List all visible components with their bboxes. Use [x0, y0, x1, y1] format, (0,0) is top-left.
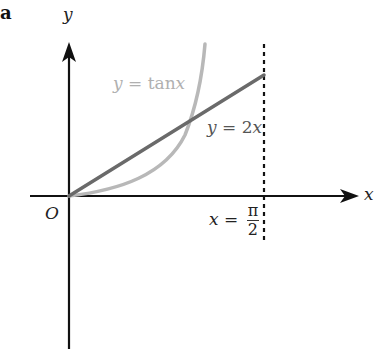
tan-curve-label: y = tanx [113, 75, 185, 92]
graph-canvas [0, 0, 382, 349]
x-axis-label: x [364, 186, 374, 203]
tan-label-eq: = [123, 73, 148, 93]
tan-label-func: tan [148, 73, 176, 93]
origin-label: O [45, 205, 59, 222]
tan-curve [69, 44, 205, 196]
asymptote-label-lhs: x [209, 209, 219, 229]
line-label-eq: = [217, 117, 242, 137]
fraction-numerator: π [247, 203, 260, 221]
asymptote-label-eq: = [219, 209, 244, 229]
asymptote-fraction: π2 [247, 203, 260, 238]
line-label: y = 2x [207, 119, 262, 136]
fraction-denominator: 2 [247, 221, 260, 238]
line-label-coef: 2 [242, 117, 253, 137]
graph-diagram: a y x O y = tanx y = 2x x = π2 [0, 0, 382, 349]
asymptote-label: x = π2 [209, 203, 259, 238]
part-label: a [0, 2, 12, 23]
tan-label-lhs: y [113, 73, 123, 93]
line-label-lhs: y [207, 117, 217, 137]
tan-label-var: x [176, 73, 186, 93]
line-label-var: x [253, 117, 263, 137]
y-axis-label: y [63, 6, 73, 23]
